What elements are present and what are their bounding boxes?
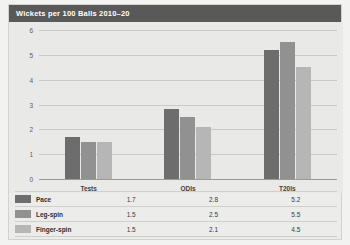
table-cell: 1.5 (90, 211, 172, 218)
table-row: Pace1.72.85.2 (15, 191, 337, 207)
bar (180, 117, 195, 179)
bar (164, 109, 179, 179)
legend-swatch-icon (15, 210, 31, 218)
plot-area: 0123456 TestsODIsT20Is (9, 22, 343, 193)
bar (280, 42, 295, 179)
axis-baseline (39, 179, 337, 180)
page-title: Wickets per 100 Balls 2010–20 (9, 9, 130, 18)
bar-group (238, 30, 337, 179)
table-value-cells: 1.52.14.5 (90, 226, 337, 233)
y-axis-tick-label: 5 (11, 51, 33, 58)
y-axis-tick-label: 3 (11, 101, 33, 108)
table-cell: 2.5 (172, 211, 254, 218)
chart-card: Wickets per 100 Balls 2010–20 0123456 Te… (8, 4, 342, 240)
legend-data-table: Pace1.72.85.2Leg-spin1.52.55.5Finger-spi… (9, 191, 343, 239)
table-cell: 5.5 (255, 211, 337, 218)
y-axis-tick-label: 4 (11, 76, 33, 83)
legend-swatch-icon (15, 225, 31, 233)
table-value-cells: 1.52.55.5 (90, 211, 337, 218)
bar (296, 67, 311, 179)
chart-title-bar: Wickets per 100 Balls 2010–20 (9, 5, 341, 22)
y-axis-tick-label: 6 (11, 27, 33, 34)
table-cell: 4.5 (255, 226, 337, 233)
bar (196, 127, 211, 179)
table-cell: 2.8 (172, 196, 254, 203)
y-axis-tick-label: 1 (11, 151, 33, 158)
legend-series-label: Finger-spin (36, 226, 90, 233)
legend-swatch-icon (15, 195, 31, 203)
bar-group (39, 30, 138, 179)
table-row: Leg-spin1.52.55.5 (15, 207, 337, 222)
table-cell: 1.7 (90, 196, 172, 203)
bar (65, 137, 80, 179)
bar (81, 142, 96, 179)
bar-group (138, 30, 237, 179)
legend-series-label: Leg-spin (36, 211, 90, 218)
table-cell: 5.2 (255, 196, 337, 203)
bar (97, 142, 112, 179)
y-axis-tick-label: 2 (11, 126, 33, 133)
table-row: Finger-spin1.52.14.5 (15, 222, 337, 237)
bar (264, 50, 279, 179)
table-cell: 1.5 (90, 226, 172, 233)
table-value-cells: 1.72.85.2 (90, 196, 337, 203)
table-cell: 2.1 (172, 226, 254, 233)
bar-groups (39, 30, 337, 179)
y-axis-tick-label: 0 (11, 176, 33, 183)
legend-series-label: Pace (36, 196, 90, 203)
